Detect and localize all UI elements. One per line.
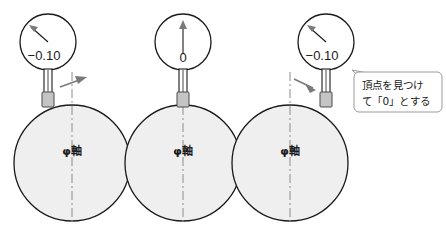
probe-tip-left [42,92,54,107]
dial-reading-right: −0.10 [306,48,339,63]
dial-reading-center: 0 [179,50,186,65]
diagram-canvas: φ軸 −0.10 φ軸 0 [0,0,446,227]
callout-group: 頂点を見つけ て「0」とする [352,70,442,112]
move-arrow-head-left [75,76,87,84]
stage-center-group: φ軸 0 [125,14,241,224]
shaft-label-left: φ軸 [62,144,82,158]
stage-left-group: φ軸 −0.10 [14,14,130,224]
callout-line-1: 頂点を見つけ [362,79,423,91]
probe-tip-right [320,92,332,107]
stage-right-group: φ軸 −0.10 [232,14,354,224]
move-arrow-head-right [305,84,316,93]
move-arrow-right [294,79,313,88]
shaft-label-right: φ軸 [280,144,300,158]
dial-reading-left: −0.10 [28,48,61,63]
probe-tip-center [177,92,189,107]
callout-line-2: て「0」とする [362,95,430,107]
shaft-label-center: φ軸 [173,144,193,158]
